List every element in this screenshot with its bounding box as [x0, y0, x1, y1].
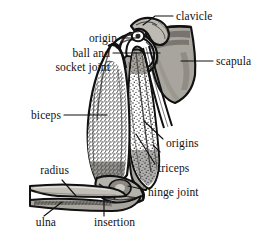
label-ulna: ulna: [36, 216, 56, 229]
label-biceps: biceps: [31, 109, 61, 122]
label-clavicle: clavicle: [176, 10, 213, 23]
anatomy-figure: clavicle origin ball and socket joint sc…: [0, 0, 276, 243]
label-ball-and-socket-joint: ball and socket joint: [55, 46, 110, 74]
label-radius: radius: [40, 164, 69, 177]
arm-anatomy-illustration: [0, 0, 276, 243]
label-insertion: insertion: [94, 216, 135, 229]
label-ball-and-socket-joint-line1: ball and: [55, 46, 110, 60]
label-scapula: scapula: [216, 55, 251, 68]
label-origins: origins: [166, 137, 199, 150]
label-ball-and-socket-joint-line2: socket joint: [55, 60, 110, 74]
label-triceps: triceps: [158, 162, 189, 175]
label-hinge-joint: hinge joint: [148, 186, 199, 199]
label-origin: origin: [89, 32, 117, 45]
